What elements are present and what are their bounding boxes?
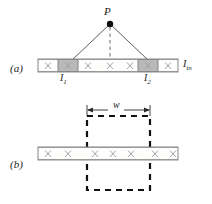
figure-canvas [0,0,212,204]
detector-bar-b [38,147,178,160]
panel-a [38,21,178,72]
dimension-arrow-left-icon [87,108,93,113]
panel-b [38,105,178,190]
current-label-iin: Iin [183,59,192,72]
ray-left [72,24,110,60]
width-dimension-label: w [113,100,120,110]
current-label-i2-sub: 2 [147,78,151,86]
bar-body-b [38,147,178,160]
panel-a-label: (a) [10,63,23,74]
current-label-i2: I2 [144,73,151,86]
detector-bar-a [38,59,178,72]
current-label-iin-sub: in [186,64,191,72]
source-point-dot [107,21,113,27]
ray-right [110,24,148,60]
current-label-i1-sub: 1 [63,78,67,86]
current-label-i1: I1 [60,73,67,86]
dimension-arrow-right-icon [144,108,150,113]
panel-b-label: (b) [10,159,23,170]
source-point-label: P [104,6,111,17]
